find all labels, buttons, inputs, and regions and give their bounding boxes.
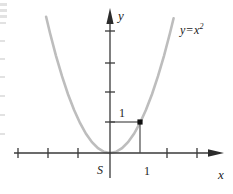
origin-label: S <box>97 164 103 176</box>
math-graph-figure: y x S 1 1 y=x2 <box>0 0 233 194</box>
y-axis-arrow-icon <box>106 8 113 24</box>
curve-equation-label: y=x2 <box>180 23 203 36</box>
x-axis-arrow-icon <box>208 149 224 157</box>
unit-point-marker <box>137 119 142 124</box>
unit-point-label: 1 <box>119 107 125 119</box>
x-axis-tick-label-one: 1 <box>144 165 150 177</box>
y-axis-label: y <box>118 9 124 22</box>
x-axis-label: x <box>218 168 224 181</box>
curve-exponent: 2 <box>199 22 203 31</box>
equals-sign: = <box>185 23 194 37</box>
